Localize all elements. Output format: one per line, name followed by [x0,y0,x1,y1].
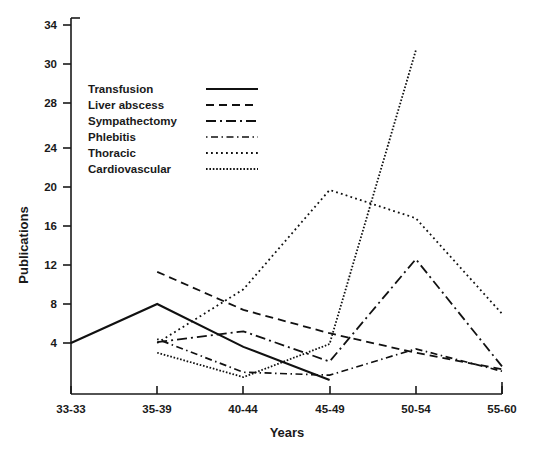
series-line-liver-abscess [157,272,502,370]
legend-label-phlebitis: Phlebitis [88,131,136,143]
x-tick-label-55-60: 55-60 [487,403,516,415]
y-tick-label-12: 12 [44,259,57,271]
y-tick-label-8: 8 [51,298,58,310]
series-line-thoracic [157,190,502,343]
y-tick-label-4: 4 [51,337,58,349]
x-tick-label-45-49: 45-49 [315,403,344,415]
line-chart-figure: 34 30 28 24 20 16 12 8 4 33-33 35-39 40-… [0,0,544,449]
legend-label-sympathectomy: Sympathectomy [88,115,177,127]
legend: Transfusion Liver abscess Sympathectomy … [88,83,258,175]
series-line-cardiovascular [157,51,416,378]
y-tick-label-20: 20 [44,181,57,193]
y-tick-label-16: 16 [44,220,57,232]
y-tick-label-34: 34 [44,19,57,31]
axis-group [71,18,502,394]
legend-label-thoracic: Thoracic [88,147,137,159]
y-axis-title: Publications [16,206,31,283]
x-tick-marks [71,386,502,394]
y-tick-labels: 34 30 28 24 20 16 12 8 4 [44,19,57,349]
x-tick-label-35-39: 35-39 [142,403,171,415]
y-tick-label-28: 28 [44,97,57,109]
x-tick-label-33-33: 33-33 [56,403,85,415]
legend-label-transfusion: Transfusion [88,83,153,95]
x-tick-label-40-44: 40-44 [228,403,258,415]
x-tick-labels: 33-33 35-39 40-44 45-49 50-54 55-60 [56,403,516,415]
legend-label-liver-abscess: Liver abscess [88,99,164,111]
y-tick-label-30: 30 [44,58,57,70]
legend-label-cardiovascular: Cardiovascular [88,163,172,175]
chart-svg: 34 30 28 24 20 16 12 8 4 33-33 35-39 40-… [0,0,544,449]
y-tick-marks [63,25,71,343]
series-line-sympathectomy [157,259,502,366]
x-axis-title: Years [270,425,305,440]
x-tick-label-50-54: 50-54 [401,403,431,415]
y-tick-label-24: 24 [44,142,57,154]
